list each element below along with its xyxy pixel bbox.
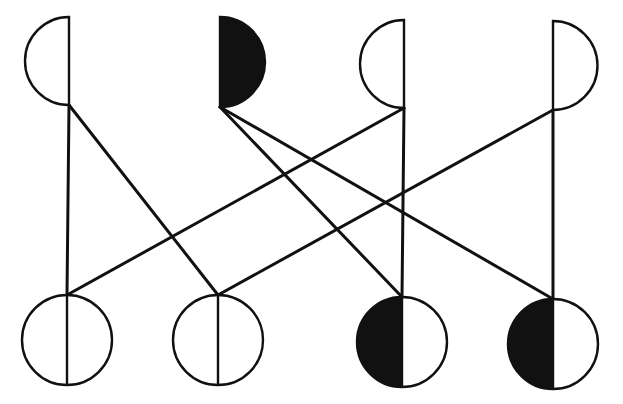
half-disc-t1-open	[25, 17, 69, 105]
filled-half-left	[508, 299, 553, 389]
edge-t4-b2	[218, 110, 553, 295]
circle-node-b1	[22, 295, 112, 385]
connection-lines	[67, 105, 553, 299]
circle-node-b2	[173, 295, 263, 385]
pedigree-diagram	[0, 0, 623, 404]
edge-t1-b2	[69, 105, 218, 295]
edge-t3-b1	[67, 108, 404, 295]
filled-half-left	[357, 297, 402, 387]
edge-t2-b3	[220, 107, 402, 297]
half-disc-t3-open	[360, 20, 404, 108]
top-row-nodes	[25, 17, 598, 110]
edge-t1-b1	[67, 105, 69, 295]
bottom-row-nodes	[22, 295, 598, 389]
edge-t3-b3	[402, 108, 404, 297]
half-disc-t2-filled	[220, 17, 265, 107]
circle-node-b3	[357, 297, 447, 387]
circle-node-b4	[508, 299, 598, 389]
half-disc-t4-open	[553, 21, 598, 110]
